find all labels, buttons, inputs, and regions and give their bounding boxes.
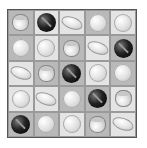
dark-ball-icon [114, 39, 133, 58]
sphere-ball-icon [37, 39, 55, 57]
sphere-ball-icon [63, 115, 81, 133]
board-cell-r2-c4[interactable] [85, 35, 111, 60]
sphere-ball-icon [114, 14, 132, 32]
board-cell-r3-c1[interactable] [8, 61, 34, 86]
board-cell-r2-c3[interactable] [59, 35, 85, 60]
board-cell-r1-c5[interactable] [110, 10, 136, 35]
sphere-ball-icon [12, 39, 30, 57]
dark-ball-icon [37, 13, 56, 32]
board-cell-r5-c2[interactable] [34, 112, 60, 137]
ellipse-ball-icon [34, 89, 59, 108]
sphere-ball-icon [114, 64, 132, 82]
board-cell-r1-c2[interactable] [34, 10, 60, 35]
ellipse-ball-icon [60, 13, 85, 32]
board-cell-r1-c3[interactable] [59, 10, 85, 35]
dark-ball-icon [11, 115, 30, 134]
board-cell-r3-c4[interactable] [85, 61, 111, 86]
board-cell-r2-c2[interactable] [34, 35, 60, 60]
board-cell-r4-c3[interactable] [59, 86, 85, 111]
board-cell-r1-c4[interactable] [85, 10, 111, 35]
sphere-ball-icon [37, 115, 55, 133]
cup-ball-icon [115, 90, 132, 107]
board-cell-r5-c5[interactable] [110, 112, 136, 137]
cup-ball-icon [89, 116, 106, 133]
ellipse-ball-icon [85, 39, 110, 58]
ellipse-ball-icon [8, 64, 33, 83]
dark-ball-icon [88, 89, 107, 108]
board-cell-r2-c1[interactable] [8, 35, 34, 60]
board-cell-r5-c1[interactable] [8, 112, 34, 137]
sphere-ball-icon [89, 14, 107, 32]
board-cell-r3-c3[interactable] [59, 61, 85, 86]
board-cell-r4-c2[interactable] [34, 86, 60, 111]
cup-ball-icon [63, 40, 80, 57]
game-board [7, 9, 137, 138]
board-cell-r3-c5[interactable] [110, 61, 136, 86]
board-cell-r2-c5[interactable] [110, 35, 136, 60]
board-cell-r4-c1[interactable] [8, 86, 34, 111]
cup-ball-icon [12, 14, 29, 31]
sphere-ball-icon [89, 64, 107, 82]
sphere-ball-icon [12, 90, 30, 108]
sphere-ball-icon [63, 90, 81, 108]
ellipse-ball-icon [111, 115, 136, 134]
board-cell-r1-c1[interactable] [8, 10, 34, 35]
board-cell-r5-c3[interactable] [59, 112, 85, 137]
board-cell-r4-c5[interactable] [110, 86, 136, 111]
dark-ball-icon [62, 64, 81, 83]
board-cell-r5-c4[interactable] [85, 112, 111, 137]
cup-ball-icon [38, 65, 55, 82]
board-cell-r3-c2[interactable] [34, 61, 60, 86]
board-cell-r4-c4[interactable] [85, 86, 111, 111]
